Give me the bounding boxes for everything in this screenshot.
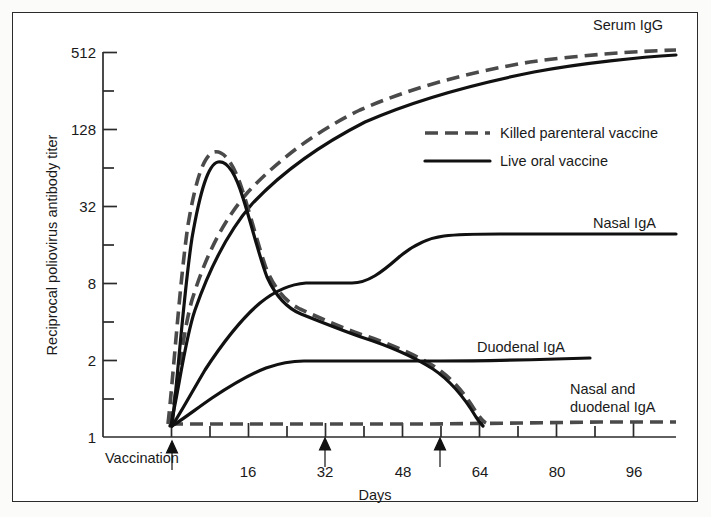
curve-serum-igm-solid: [172, 162, 483, 426]
series-nasal-iga-live: [172, 234, 676, 426]
curve-serum-igg-dashed: [170, 50, 676, 424]
legend: Killed parenteral vaccine Live oral vacc…: [425, 125, 658, 169]
y-tick-label-8: 8: [88, 275, 96, 292]
y-axis: 512 128 32 8 2 1 Reciprocal poliovirus a…: [44, 44, 117, 446]
x-tick-label-64: 64: [472, 463, 489, 480]
label-duodenal-iga: Duodenal IgA: [477, 339, 565, 355]
x-tick-label-16: 16: [240, 463, 257, 480]
antibody-titer-chart: 512 128 32 8 2 1 Reciprocal poliovirus a…: [0, 0, 711, 517]
x-tick-label-80: 80: [549, 463, 566, 480]
series-serum-igg-killed: [170, 50, 676, 424]
y-tick-label-128: 128: [71, 121, 96, 138]
series-serum-igm-live: [172, 162, 483, 426]
y-tick-label-32: 32: [79, 198, 96, 215]
label-serum-igg: Serum IgG: [593, 17, 663, 33]
y-tick-label-1: 1: [88, 429, 96, 446]
vaccination-arrow-3-icon: [435, 438, 446, 467]
label-nasal-iga: Nasal IgA: [593, 215, 656, 231]
curve-serum-igm-dashed: [168, 152, 486, 424]
y-tick-label-2: 2: [88, 352, 96, 369]
series-nasal-duodenal-iga-killed: [170, 422, 676, 424]
x-tick-label-96: 96: [626, 463, 643, 480]
series-duodenal-iga-live: [172, 358, 590, 426]
x-axis-title: Days: [358, 487, 391, 503]
x-tick-label-48: 48: [395, 463, 412, 480]
chart-page: 512 128 32 8 2 1 Reciprocal poliovirus a…: [0, 0, 711, 517]
x-axis: 16 32 48 64 80 96 Days: [103, 423, 676, 503]
legend-label-live: Live oral vaccine: [500, 153, 608, 169]
legend-label-killed: Killed parenteral vaccine: [500, 125, 658, 141]
y-tick-label-512: 512: [71, 44, 96, 61]
curve-nasal-iga-solid: [172, 234, 676, 426]
curve-duodenal-iga-solid: [172, 358, 590, 426]
label-nasal-duodenal-iga-line2: duodenal IgA: [570, 399, 656, 415]
label-nasal-duodenal-iga-line1: Nasal and: [570, 381, 635, 397]
series-serum-igm-killed: [168, 152, 486, 424]
curve-nasal-duodenal-iga-dashed: [170, 422, 676, 424]
y-axis-title: Reciprocal poliovirus antibody titer: [44, 134, 60, 355]
